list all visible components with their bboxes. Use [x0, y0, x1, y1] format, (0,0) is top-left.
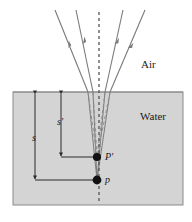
- image-point-marker: [93, 153, 101, 161]
- air-rays-group: [55, 10, 145, 92]
- apparent-depth-label: s': [56, 117, 64, 127]
- water-region-label: Water: [140, 111, 166, 122]
- refraction-figure: Air Water s s' P' p: [0, 0, 192, 222]
- arrowhead-outer-left: [66, 40, 72, 48]
- object-point-marker: [93, 176, 102, 185]
- air-ray-inner-left: [76, 10, 93, 92]
- image-point-label: P': [105, 152, 113, 162]
- true-depth-label: s: [31, 133, 37, 143]
- air-ray-outer-right: [110, 10, 145, 92]
- air-ray-outer-left: [55, 10, 88, 92]
- air-ray-inner-right: [105, 10, 123, 92]
- air-region-label: Air: [141, 59, 156, 70]
- object-point-label: p: [105, 175, 110, 185]
- air-ray-arrowheads: [66, 36, 134, 49]
